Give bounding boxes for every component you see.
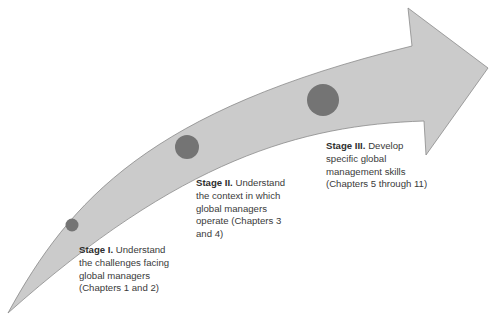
- stage-3-label: Stage III. Develop specific global manag…: [326, 140, 427, 191]
- stage-1-title: Stage I.: [79, 244, 113, 255]
- stage-2-title: Stage II.: [196, 177, 233, 188]
- stage-3-title: Stage III.: [326, 140, 365, 151]
- stage-3-marker-icon: [307, 84, 339, 116]
- stage-1-marker-icon: [66, 219, 79, 232]
- stage-1-label: Stage I. Understand the challenges facin…: [79, 244, 169, 295]
- stages-diagram: Stage I. Understand the challenges facin…: [0, 0, 499, 323]
- stage-2-label: Stage II. Understand the context in whic…: [196, 177, 285, 241]
- stage-2-marker-icon: [175, 135, 199, 159]
